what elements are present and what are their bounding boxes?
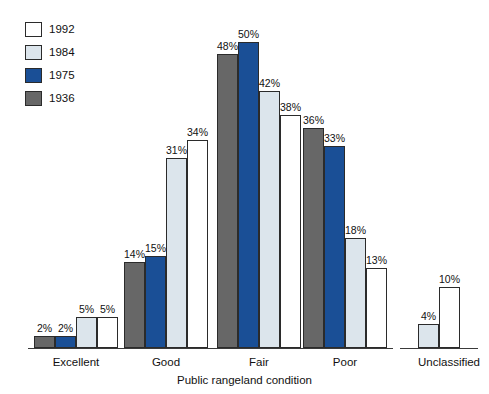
bar-value-label: 5%: [100, 304, 115, 315]
bar-good-1984: 31%: [166, 158, 187, 348]
bar-value-label: 38%: [280, 102, 301, 113]
rangeland-condition-bar-chart: 1992 1984 1975 1936 2%2%5%5%Excellent14%…: [0, 0, 489, 394]
bar-value-label: 42%: [259, 78, 280, 89]
bar-good-1936: 14%: [124, 262, 145, 348]
bar-good-1992: 34%: [187, 140, 208, 348]
bar-group-excellent: 2%2%5%5%Excellent: [34, 0, 118, 394]
bar-value-label: 13%: [366, 255, 387, 266]
bar-value-label: 18%: [345, 225, 366, 236]
category-label-poor: Poor: [303, 356, 387, 368]
bar-value-label: 10%: [439, 274, 460, 285]
bar-rect: [187, 140, 208, 348]
bar-excellent-1992: 5%: [97, 317, 118, 348]
bar-value-label: 15%: [145, 243, 166, 254]
bar-poor-1936: 36%: [303, 128, 324, 348]
bar-rect: [366, 268, 387, 348]
category-label-good: Good: [124, 356, 208, 368]
bars-poor: 36%33%18%13%: [303, 128, 387, 348]
bar-group-unclassified: 4%10%Unclassified: [418, 0, 460, 394]
axis-baseline-segment: [28, 348, 124, 349]
bar-value-label: 48%: [217, 41, 238, 52]
bar-poor-1984: 18%: [345, 238, 366, 348]
bar-group-poor: 36%33%18%13%Poor: [303, 0, 387, 394]
axis-baseline-segment: [400, 348, 478, 349]
bars-fair: 48%50%42%38%: [217, 42, 301, 348]
bar-group-fair: 48%50%42%38%Fair: [217, 0, 301, 394]
bar-rect: [280, 115, 301, 348]
bar-rect: [418, 324, 439, 348]
bar-rect: [166, 158, 187, 348]
bar-rect: [439, 287, 460, 348]
axis-baseline-segment: [211, 348, 307, 349]
bar-value-label: 14%: [124, 249, 145, 260]
category-label-unclassified: Unclassified: [418, 356, 460, 368]
bar-poor-1975: 33%: [324, 146, 345, 348]
x-axis-title: Public rangeland condition: [0, 374, 489, 386]
bar-rect: [97, 317, 118, 348]
bar-rect: [238, 42, 259, 348]
bar-good-1975: 15%: [145, 256, 166, 348]
bar-group-good: 14%15%31%34%Good: [124, 0, 208, 394]
bar-fair-1975: 50%: [238, 42, 259, 348]
bar-value-label: 36%: [303, 115, 324, 126]
bar-rect: [259, 91, 280, 348]
bar-unclassified-1984: 4%: [418, 324, 439, 348]
bar-rect: [34, 336, 55, 348]
plot-area: 2%2%5%5%Excellent14%15%31%34%Good48%50%4…: [0, 0, 489, 394]
bar-value-label: 50%: [238, 29, 259, 40]
bar-unclassified-1992: 10%: [439, 287, 460, 348]
category-label-excellent: Excellent: [34, 356, 118, 368]
bar-value-label: 31%: [166, 145, 187, 156]
axis-baseline-segment: [297, 348, 393, 349]
bar-excellent-1984: 5%: [76, 317, 97, 348]
bar-rect: [217, 54, 238, 348]
bar-value-label: 4%: [421, 311, 436, 322]
bar-rect: [55, 336, 76, 348]
bar-rect: [145, 256, 166, 348]
bars-unclassified: 4%10%: [418, 287, 460, 348]
bar-rect: [76, 317, 97, 348]
bar-rect: [303, 128, 324, 348]
bar-excellent-1936: 2%: [34, 336, 55, 348]
bar-fair-1984: 42%: [259, 91, 280, 348]
bar-rect: [124, 262, 145, 348]
bar-value-label: 33%: [324, 133, 345, 144]
bar-excellent-1975: 2%: [55, 336, 76, 348]
bar-fair-1936: 48%: [217, 54, 238, 348]
category-label-fair: Fair: [217, 356, 301, 368]
bar-value-label: 34%: [187, 127, 208, 138]
bars-good: 14%15%31%34%: [124, 140, 208, 348]
axis-baseline-segment: [118, 348, 214, 349]
bar-value-label: 2%: [37, 323, 52, 334]
bar-fair-1992: 38%: [280, 115, 301, 348]
bar-rect: [324, 146, 345, 348]
bar-value-label: 2%: [58, 323, 73, 334]
bars-excellent: 2%2%5%5%: [34, 317, 118, 348]
bar-rect: [345, 238, 366, 348]
bar-value-label: 5%: [79, 304, 94, 315]
bar-poor-1992: 13%: [366, 268, 387, 348]
